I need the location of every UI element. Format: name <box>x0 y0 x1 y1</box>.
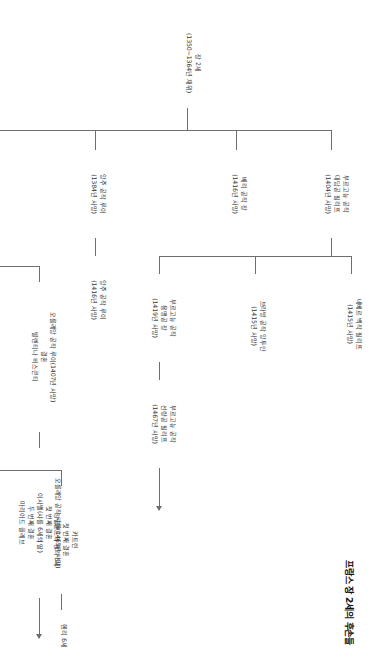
node-louis-anjou: 앙주 공작 루이 (1384년 사망) <box>89 150 107 238</box>
node-henry-vi-name: 헨리 6세 <box>59 610 68 662</box>
node-philip-nevers: 네베르 백작 필리프 (1415년 사망) <box>345 274 363 374</box>
connector-to-louis-anjou <box>95 130 96 150</box>
connector-root-stem <box>187 108 188 130</box>
node-philip-good-years: (1467년 사망) <box>150 380 159 468</box>
genealogy-chart: 프랑스 장 2세의 후손들 장 2세 (1350~1364년 재위) 부르고뉴 … <box>0 0 378 667</box>
connector-catherine-to-henry-vi <box>61 594 62 610</box>
node-louis-anjou-2-name: 앙주 공작 루이 <box>98 256 107 344</box>
connector-john-fearless-to-philip-good <box>159 362 160 380</box>
node-catherine: 카트린 첫 번째 결혼 잉글랜드의 헨리 5세 <box>52 486 79 594</box>
node-anthony-brabant-name: 브라방 공작 앙투안 <box>258 274 267 378</box>
node-anthony-brabant: 브라방 공작 앙투안 (1415년 사망) <box>249 274 267 378</box>
node-anthony-brabant-years: (1415년 사망) <box>249 274 258 378</box>
page-title: 프랑스 장 2세의 후손들 <box>343 560 356 645</box>
node-root-name: 장 2세 <box>193 18 202 108</box>
connector-philip-bold-stem <box>331 238 332 256</box>
node-philip-bold-name: 부르고뉴 공작 <box>341 150 350 238</box>
node-root: 장 2세 (1350~1364년 재위) <box>184 18 202 108</box>
node-louis-orleans-name: 오를레앙 공작 루이(1407년 사망) <box>48 282 57 432</box>
node-henry-vi: 헨리 6세 <box>59 610 68 662</box>
node-philip-bold-sub: 대담공 필리프 <box>332 150 341 238</box>
connector-to-john-berry <box>236 130 237 150</box>
connector-to-philip-nevers <box>351 256 352 274</box>
connector-to-catherine <box>61 470 62 486</box>
node-john-berry-name: 베리 공작 장 <box>239 150 248 238</box>
connector-to-john-fearless <box>159 256 160 274</box>
node-philip-bold-years: (1404년 사망) <box>323 150 332 238</box>
node-catherine-line2: 첫 번째 결혼 <box>61 486 70 594</box>
node-philip-nevers-years: (1415년 사망) <box>345 274 354 374</box>
node-philip-good-sub: 선량공 필리프 <box>159 380 168 468</box>
node-louis-anjou-2: 앙주 공작 루이 (1416년 사망) <box>89 256 107 344</box>
node-catherine-line1: 카트린 <box>70 486 79 594</box>
node-john-fearless-name: 부르고뉴 공작 <box>168 274 177 362</box>
node-john-berry-years: (1416년 사망) <box>230 150 239 238</box>
connector-to-louis-orleans <box>39 266 40 282</box>
connector-charles-v-bus <box>0 266 40 267</box>
connector-louis-anjou-chain <box>95 238 96 256</box>
connector-louis-to-charles-orleans <box>39 432 40 448</box>
node-catherine-line3: 잉글랜드의 헨리 5세 <box>52 486 61 594</box>
node-philip-nevers-name: 네베르 백작 필리프 <box>354 274 363 374</box>
connector-root-bus <box>0 130 332 131</box>
node-louis-anjou-2-years: (1416년 사망) <box>89 256 98 344</box>
node-louis-anjou-years: (1384년 사망) <box>89 150 98 238</box>
node-philip-good: 부르고뉴 공작 선량공 필리프 (1467년 사망) <box>150 380 177 468</box>
node-louis-orleans-spouse: 발렌티나 비스콘티 <box>30 282 39 432</box>
arrow-philip-good-continues <box>159 468 160 510</box>
node-root-years: (1350~1364년 재위) <box>184 18 193 108</box>
node-john-fearless-years: (1419년 사망) <box>150 274 159 362</box>
connector-to-anthony-brabant <box>255 256 256 274</box>
node-john-berry: 베리 공작 장 (1416년 사망) <box>230 150 248 238</box>
connector-philip-bold-bus <box>160 256 352 257</box>
node-philip-good-name: 부르고뉴 공작 <box>168 380 177 468</box>
node-john-fearless: 부르고뉴 공작 용맹공 장 (1419년 사망) <box>150 274 177 362</box>
node-louis-orleans: 오를레앙 공작 루이(1407년 사망) 결혼 발렌티나 비스콘티 <box>30 282 57 432</box>
node-louis-anjou-name: 앙주 공작 루이 <box>98 150 107 238</box>
node-philip-bold: 부르고뉴 공작 대담공 필리프 (1404년 사망) <box>323 150 350 238</box>
node-louis-orleans-sub: 결혼 <box>39 282 48 432</box>
node-john-fearless-sub: 용맹공 장 <box>159 274 168 362</box>
connector-charles-vi-bus <box>0 470 62 471</box>
arrow-charles-orleans-continues <box>39 598 40 638</box>
connector-to-philip-bold <box>331 130 332 150</box>
